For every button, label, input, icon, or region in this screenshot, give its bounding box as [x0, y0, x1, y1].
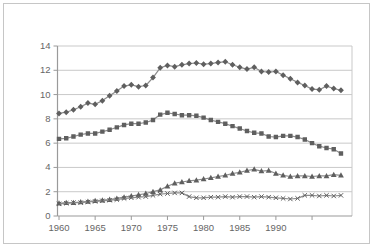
series-1-diamond-line — [59, 62, 341, 114]
x-tick-label: 1990 — [265, 222, 286, 233]
y-tick-label: 14 — [40, 40, 51, 51]
y-tick-label: 6 — [45, 137, 50, 148]
series-1-diamond-markers — [56, 59, 344, 117]
x-tick-label: 1970 — [121, 222, 142, 233]
x-tick-label: 1985 — [229, 222, 250, 233]
y-tick-label: 10 — [40, 89, 51, 100]
y-tick-label: 12 — [40, 64, 51, 75]
x-tick-label: 1965 — [85, 222, 106, 233]
line-chart: 024681012141960196519701975198019851990 — [0, 0, 376, 250]
y-tick-label: 0 — [45, 210, 50, 221]
series-3-triangle-markers — [56, 166, 344, 205]
y-tick-label: 2 — [45, 186, 50, 197]
y-tick-label: 8 — [45, 113, 50, 124]
x-tick-label: 1980 — [193, 222, 214, 233]
series-2-square-markers — [57, 111, 343, 156]
y-tick-label: 4 — [45, 161, 50, 172]
x-tick-label: 1975 — [157, 222, 178, 233]
scanned-chart-figure: 024681012141960196519701975198019851990 — [0, 0, 376, 250]
x-tick-label: 1960 — [48, 222, 69, 233]
